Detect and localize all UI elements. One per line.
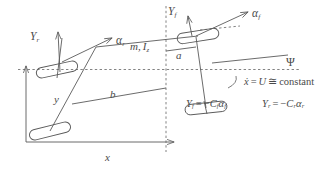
rear-force-label: Yr xyxy=(30,31,39,44)
front-wheel-direction-dashed-line xyxy=(200,26,240,30)
distance-a-label: a xyxy=(176,50,182,61)
dimension-line-b xyxy=(72,88,166,104)
front-force-label: Yf xyxy=(168,6,177,19)
front-force-arrow xyxy=(188,16,192,36)
yaw-angle-label: Ψ xyxy=(286,56,295,68)
rear-slip-angle-arrow xyxy=(62,38,112,62)
rear-lateral-force-equation: Yr=−Crαr xyxy=(262,99,304,110)
front-slip-angle-arrow xyxy=(196,12,248,36)
heading-line-psi xyxy=(212,55,288,63)
front-slip-angle-label: αf xyxy=(252,8,260,21)
mass-inertia-label: m,Iz xyxy=(130,41,149,53)
vehicle-body-centerline xyxy=(50,47,96,131)
y-axis-label: y xyxy=(54,94,59,105)
speed-arc xyxy=(228,76,236,88)
distance-b-label: b xyxy=(110,89,116,100)
bicycle-model-figure: Yr αr m,Iz Yf αf a b Ψ y x ẋ=U≅constant… xyxy=(0,0,332,170)
rear-slip-angle-label: αr xyxy=(116,35,125,48)
x-axis-label: x xyxy=(105,152,110,163)
front-lateral-force-equation: Yf=−Cfαf xyxy=(186,99,226,110)
speed-equation: ẋ=U≅constant xyxy=(244,77,314,88)
